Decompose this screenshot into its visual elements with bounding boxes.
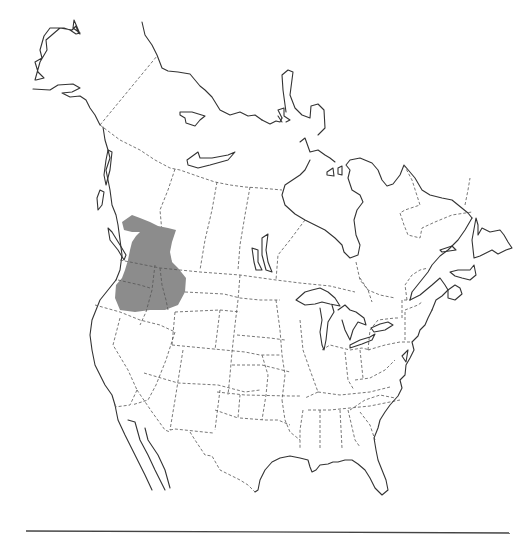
baseline-rule — [26, 531, 510, 533]
lake-winnipeg — [262, 234, 272, 272]
arctic-island — [180, 112, 205, 126]
lake-manitoba — [252, 248, 262, 270]
alaska — [33, 20, 262, 125]
great-lakes — [296, 288, 393, 350]
species-range-area — [115, 215, 186, 312]
north-america-range-map — [0, 0, 521, 546]
atlantic-gulf-coast — [255, 310, 432, 495]
arctic-island — [187, 152, 235, 168]
